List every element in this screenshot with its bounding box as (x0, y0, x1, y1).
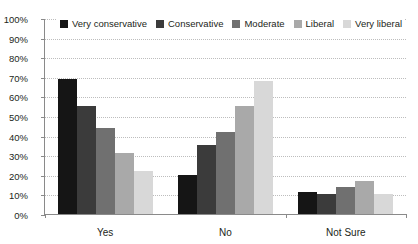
bar (298, 192, 317, 214)
y-axis-label: 20% (0, 172, 28, 182)
y-axis-label: 40% (0, 133, 28, 143)
chart-legend: Very conservativeConservativeModerateLib… (57, 16, 405, 31)
legend-item: Very liberal (343, 18, 402, 29)
plot-area: 0%10%20%30%40%50%60%70%80%90%100% YesNoN… (44, 19, 406, 215)
bar (374, 194, 393, 214)
bar (336, 187, 355, 214)
bar (58, 79, 77, 214)
bar-chart: 0%10%20%30%40%50%60%70%80%90%100% YesNoN… (0, 0, 418, 244)
legend-swatch-icon (60, 20, 68, 28)
y-axis-label: 70% (0, 74, 28, 84)
y-axis-label: 50% (0, 113, 28, 123)
bar-group: Not Sure (286, 19, 406, 214)
bar-groups: YesNoNot Sure (45, 19, 406, 214)
legend-swatch-icon (343, 20, 351, 28)
bar-group: Yes (45, 19, 165, 214)
x-axis-label: Yes (45, 227, 165, 238)
bar (235, 106, 254, 214)
legend-item: Very conservative (60, 18, 147, 29)
legend-item: Conservative (156, 18, 223, 29)
bar (134, 171, 153, 214)
bar (96, 128, 115, 214)
bar (216, 132, 235, 214)
legend-swatch-icon (156, 20, 164, 28)
legend-label: Very conservative (72, 18, 147, 29)
bar-group: No (165, 19, 285, 214)
y-axis-label: 60% (0, 93, 28, 103)
y-axis-label: 80% (0, 54, 28, 64)
y-axis-label: 0% (0, 211, 28, 221)
bar (355, 181, 374, 214)
legend-label: Liberal (306, 18, 335, 29)
bar (178, 175, 197, 214)
legend-swatch-icon (294, 20, 302, 28)
y-axis-label: 100% (0, 15, 28, 25)
bar (317, 194, 336, 214)
x-axis-tick (406, 214, 407, 218)
x-axis-tick (286, 214, 287, 218)
bar (254, 81, 273, 214)
legend-swatch-icon (232, 20, 240, 28)
y-axis-label: 10% (0, 191, 28, 201)
y-axis-label: 90% (0, 35, 28, 45)
x-axis-tick (45, 214, 46, 218)
y-axis-label: 30% (0, 152, 28, 162)
bar (197, 145, 216, 214)
legend-label: Very liberal (355, 18, 402, 29)
bar (77, 106, 96, 214)
x-axis-label: Not Sure (286, 227, 406, 238)
legend-label: Moderate (244, 18, 284, 29)
bar (115, 153, 134, 214)
legend-label: Conservative (168, 18, 223, 29)
legend-item: Moderate (232, 18, 284, 29)
x-axis-label: No (165, 227, 285, 238)
legend-item: Liberal (294, 18, 335, 29)
